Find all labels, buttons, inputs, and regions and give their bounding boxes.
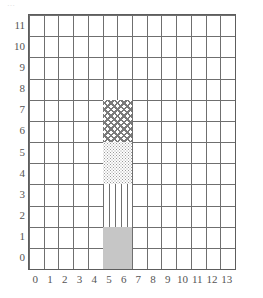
gridline-horizontal [29, 227, 235, 228]
segment-vertical-stripes[interactable] [103, 184, 132, 226]
gridline-horizontal [29, 184, 235, 185]
y-tick-label: 10 [3, 40, 25, 52]
y-tick-label: 3 [3, 188, 25, 200]
y-tick-label: 7 [3, 103, 25, 115]
segment-crosshatch[interactable] [103, 100, 132, 142]
gridline-horizontal [29, 79, 235, 80]
y-tick-label: 11 [3, 19, 25, 31]
y-tick-label: 9 [3, 61, 25, 73]
stacked-bar[interactable] [103, 100, 132, 269]
y-tick-label: 4 [3, 167, 25, 179]
gridline-horizontal [29, 15, 235, 16]
cropped-top-artifact: … [7, 0, 29, 7]
y-tick-label: 8 [3, 82, 25, 94]
gridline-horizontal [29, 142, 235, 143]
x-tick-label: 13 [217, 272, 237, 286]
gridline-horizontal [29, 57, 235, 58]
gridline-horizontal [29, 121, 235, 122]
gridline-horizontal [29, 269, 235, 270]
segment-solid-gray[interactable] [103, 227, 132, 269]
gridline-horizontal [29, 206, 235, 207]
y-tick-label: 5 [3, 146, 25, 158]
gridline-horizontal [29, 248, 235, 249]
plot-area [28, 14, 236, 270]
x-axis-tick-labels: 012345678910111213 [28, 272, 236, 290]
chart-root: … 01234567891011 012345678910111213 [0, 0, 263, 298]
segment-dotted[interactable] [103, 142, 132, 184]
gridline-horizontal [29, 100, 235, 101]
y-tick-label: 1 [3, 230, 25, 242]
gridline-horizontal [29, 36, 235, 37]
y-tick-label: 6 [3, 124, 25, 136]
gridline-horizontal [29, 163, 235, 164]
gridline-vertical [235, 15, 236, 269]
y-tick-label: 0 [3, 251, 25, 263]
y-axis-tick-labels: 01234567891011 [0, 14, 25, 270]
y-tick-label: 2 [3, 209, 25, 221]
